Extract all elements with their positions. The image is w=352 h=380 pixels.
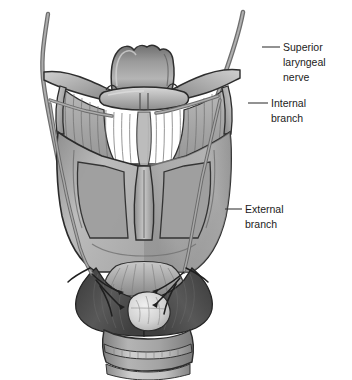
- cricothyroid-region: [76, 262, 213, 337]
- median-thyrohyoid-ligament: [137, 112, 152, 166]
- label-external-branch-line2: branch: [245, 218, 277, 230]
- label-superior-laryngeal-nerve-line3: nerve: [283, 71, 309, 83]
- epiglottis: [111, 45, 174, 90]
- label-internal-branch-line1: Internal: [271, 97, 306, 109]
- larynx-illustration: Superior laryngeal nerve Internal branch…: [0, 0, 352, 380]
- label-superior-laryngeal-nerve-line1: Superior: [283, 41, 323, 53]
- thyroid-lamina-fossa-left: [78, 162, 129, 238]
- anatomical-figure: Superior laryngeal nerve Internal branch…: [0, 0, 352, 380]
- label-external-branch-line1: External: [245, 203, 284, 215]
- label-superior-laryngeal-nerve-line2: laryngeal: [283, 56, 326, 68]
- epiglottis-body: [111, 45, 174, 90]
- label-internal-branch-line2: branch: [271, 112, 303, 124]
